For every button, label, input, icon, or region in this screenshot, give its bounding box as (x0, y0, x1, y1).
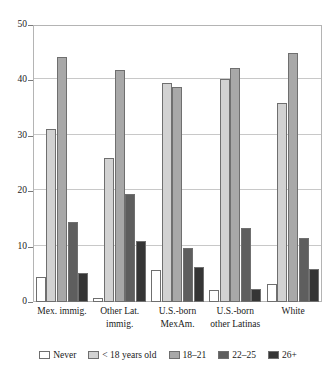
bar-2-5 (136, 241, 146, 302)
y-tick-label-10: 10 (0, 242, 27, 252)
bar-2-3 (115, 70, 125, 302)
legend-swatch-icon-2 (88, 351, 99, 359)
bar-3-3 (172, 87, 182, 303)
bar-1-5 (78, 273, 88, 302)
bar-5-3 (288, 53, 298, 302)
bar-3-2 (162, 83, 172, 302)
legend-item-3: 18–21 (169, 350, 207, 360)
bar-5-4 (299, 238, 309, 302)
x-label-4: U.S.-born other Latinas (206, 305, 264, 330)
bar-3-5 (194, 267, 204, 302)
y-tick-label-40: 40 (0, 75, 27, 85)
bar-1-1 (36, 277, 46, 302)
legend-label-4: 22–25 (232, 350, 256, 360)
legend-label-3: 18–21 (183, 350, 207, 360)
bar-4-5 (251, 289, 261, 302)
legend-item-2: < 18 years old (88, 350, 156, 360)
bar-group-2 (91, 25, 149, 302)
bar-5-5 (309, 269, 319, 302)
legend-swatch-icon-5 (268, 351, 279, 359)
legend-label-5: 26+ (282, 350, 297, 360)
bar-4-1 (209, 290, 219, 302)
bar-5-2 (277, 103, 287, 302)
y-tick-label-50: 50 (0, 20, 27, 30)
x-axis-labels: Mex. immig.Other Lat. immig.U.S.-born Me… (33, 305, 322, 339)
x-label-1: Mex. immig. (33, 305, 91, 318)
legend-swatch-icon-4 (218, 351, 229, 359)
bar-groups (33, 25, 322, 302)
bar-group-3 (149, 25, 207, 302)
bar-4-3 (230, 68, 240, 302)
bar-3-1 (151, 270, 161, 302)
legend-item-5: 26+ (268, 350, 297, 360)
legend-label-1: Never (53, 350, 76, 360)
legend-item-1: Never (39, 350, 76, 360)
bar-1-3 (57, 57, 67, 302)
bar-1-4 (68, 222, 78, 302)
bar-group-4 (206, 25, 264, 302)
legend-swatch-icon-3 (169, 351, 180, 359)
bar-4-2 (220, 79, 230, 302)
bar-group-5 (264, 25, 322, 302)
bar-2-4 (125, 194, 135, 302)
x-label-5: White (264, 305, 322, 318)
legend-item-4: 22–25 (218, 350, 256, 360)
y-tick-label-30: 30 (0, 131, 27, 141)
x-label-2: Other Lat. immig. (91, 305, 149, 330)
x-label-3: U.S.-born MexAm. (149, 305, 207, 330)
bar-3-4 (183, 248, 193, 302)
y-tick-label-20: 20 (0, 186, 27, 196)
legend: Never< 18 years old18–2122–2526+ (0, 346, 336, 364)
bar-5-1 (267, 284, 277, 302)
y-tick-mark-0 (28, 302, 33, 303)
bar-2-2 (104, 158, 114, 302)
bar-chart: 01020304050 Mex. immig.Other Lat. immig.… (0, 0, 336, 370)
bar-4-4 (241, 228, 251, 302)
legend-swatch-icon-1 (39, 351, 50, 359)
bar-group-1 (33, 25, 91, 302)
y-tick-label-0: 0 (0, 297, 27, 307)
bar-1-2 (46, 129, 56, 302)
bar-2-1 (93, 298, 103, 302)
legend-label-2: < 18 years old (102, 350, 156, 360)
